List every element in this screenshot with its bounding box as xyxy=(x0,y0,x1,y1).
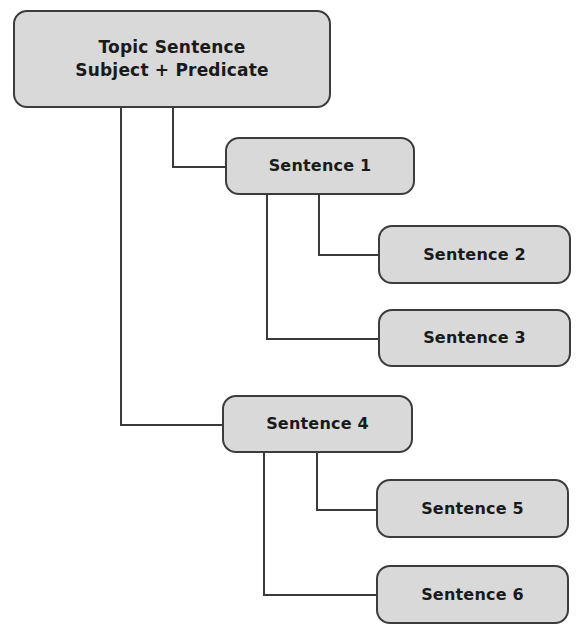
connector-s4-s5-vertical xyxy=(316,453,318,510)
sentence-5-box: Sentence 5 xyxy=(376,479,569,538)
topic-sentence-box: Topic Sentence Subject + Predicate xyxy=(13,10,331,108)
connector-s1-s2-horizontal xyxy=(318,254,379,256)
connector-root-s4-vertical xyxy=(120,108,122,425)
sentence-structure-diagram: Topic Sentence Subject + Predicate Sente… xyxy=(0,0,585,635)
connector-s4-s6-horizontal xyxy=(263,594,377,596)
sentence-3-label: Sentence 3 xyxy=(423,327,526,349)
connector-root-s1-vertical xyxy=(172,108,174,167)
connector-s1-s2-vertical xyxy=(318,195,320,255)
topic-sentence-title: Topic Sentence xyxy=(98,36,245,59)
sentence-6-label: Sentence 6 xyxy=(421,584,524,606)
connector-s1-s3-horizontal xyxy=(266,338,379,340)
connector-s4-s6-vertical xyxy=(263,453,265,595)
sentence-4-box: Sentence 4 xyxy=(222,395,413,453)
connector-s4-s5-horizontal xyxy=(316,509,377,511)
topic-sentence-subtitle: Subject + Predicate xyxy=(75,59,269,82)
sentence-4-label: Sentence 4 xyxy=(266,413,369,435)
connector-s1-s3-vertical xyxy=(266,195,268,339)
sentence-3-box: Sentence 3 xyxy=(378,309,571,367)
sentence-5-label: Sentence 5 xyxy=(421,498,524,520)
sentence-6-box: Sentence 6 xyxy=(376,565,569,624)
sentence-1-box: Sentence 1 xyxy=(225,137,415,195)
sentence-2-box: Sentence 2 xyxy=(378,225,571,284)
connector-root-s4-horizontal xyxy=(120,424,223,426)
sentence-2-label: Sentence 2 xyxy=(423,244,526,266)
sentence-1-label: Sentence 1 xyxy=(269,155,372,177)
connector-root-s1-horizontal xyxy=(172,166,226,168)
